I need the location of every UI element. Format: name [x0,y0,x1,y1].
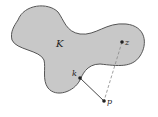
point-z [120,40,124,44]
point-k [78,76,82,80]
label-K: K [55,38,64,49]
point-p [102,99,106,103]
region-k-shape [11,6,144,93]
segment-k-p [80,78,104,101]
label-k: k [72,69,77,78]
label-z: z [124,38,130,47]
diagram-canvas: K z k p [0,0,158,117]
label-p: p [107,97,112,106]
